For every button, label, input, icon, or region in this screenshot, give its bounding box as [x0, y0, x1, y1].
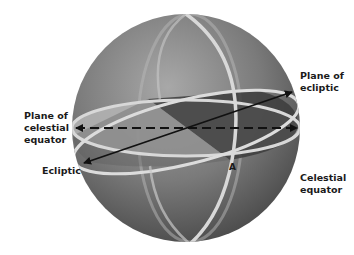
label-ecliptic: Ecliptic — [42, 165, 81, 177]
label-plane-of-celestial-equator: Plane of celestial equator — [24, 110, 69, 146]
label-celestial-equator: Celestial equator — [300, 172, 346, 196]
label-point-a: A — [229, 161, 236, 173]
celestial-sphere-diagram: Plane of celestial equator Plane of ecli… — [0, 0, 354, 255]
label-plane-of-ecliptic: Plane of ecliptic — [300, 70, 344, 94]
